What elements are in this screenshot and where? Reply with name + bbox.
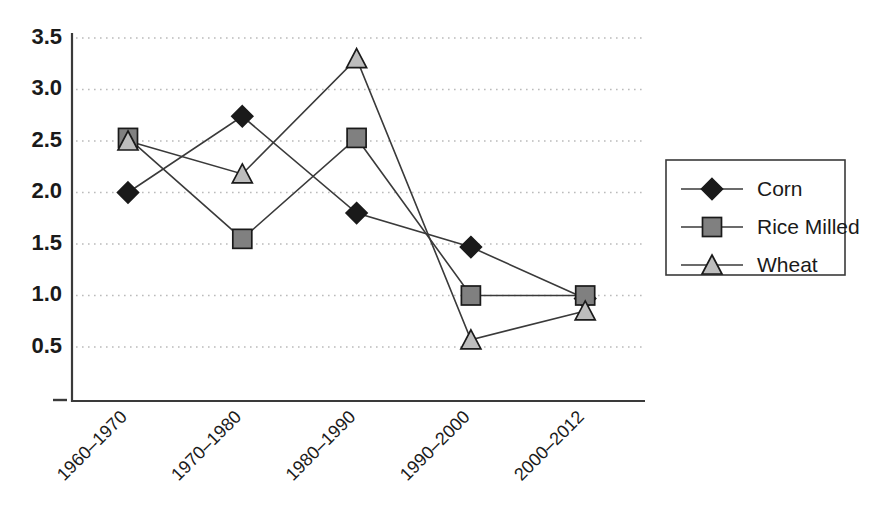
y-axis-tick-label: 1.0 [31, 281, 62, 306]
y-axis-tick-label: 1.5 [31, 230, 62, 255]
legend-label-wheat: Wheat [757, 253, 818, 276]
y-axis-tick-label: 3.5 [31, 24, 62, 49]
legend-marker-rice-milled [703, 218, 722, 237]
data-point-rice-milled-2 [347, 128, 366, 147]
line-chart: 3.53.02.52.01.51.00.5 1960–19701970–1980… [0, 0, 880, 519]
data-point-rice-milled-3 [461, 286, 480, 305]
y-axis-tick-label: 0.5 [31, 333, 62, 358]
y-axis-tick-label: 2.5 [31, 127, 62, 152]
legend-item-rice-milled[interactable]: Rice Milled [681, 215, 860, 238]
legend-label-rice-milled: Rice Milled [757, 215, 860, 238]
legend-label-corn: Corn [757, 177, 803, 200]
y-axis-tick-label: 2.0 [31, 178, 62, 203]
data-point-rice-milled-1 [233, 229, 252, 248]
chart-canvas: 3.53.02.52.01.51.00.5 1960–19701970–1980… [0, 0, 880, 519]
y-axis-tick-label: 3.0 [31, 75, 62, 100]
